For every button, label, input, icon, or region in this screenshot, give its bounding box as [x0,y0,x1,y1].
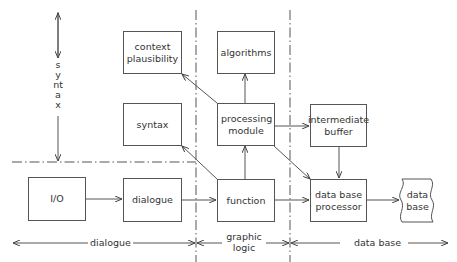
box-label: intermediate buffer [308,114,369,138]
region-label-syntax: syntax [53,60,63,110]
box-syntax: syntax [123,103,182,146]
box-label: syntax [137,119,169,131]
box-label: I/O [50,193,63,205]
box-processing-module: processing module [217,103,275,146]
box-label: algorithms [221,47,272,59]
region-label-dialogue: dialogue [88,237,133,248]
box-dialogue: dialogue [123,178,182,222]
box-label: context plausibility [124,41,181,65]
box-algorithms: algorithms [217,31,275,74]
region-label-data-base: data base [352,237,403,248]
box-label: data base processor [313,189,365,213]
region-label-graphic-logic: graphic logic [222,231,266,253]
box-label: processing module [221,113,271,137]
box-intermediate-buffer: intermediate buffer [310,104,367,147]
box-label: dialogue [132,194,173,206]
box-label: data base [406,189,430,213]
box-label: function [227,195,266,207]
box-function: function [217,179,275,222]
box-data-base: data base [402,179,433,222]
box-data-base-processor: data base processor [310,179,367,222]
box-io: I/O [28,177,86,221]
box-context-plausibility: context plausibility [123,31,182,74]
